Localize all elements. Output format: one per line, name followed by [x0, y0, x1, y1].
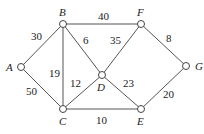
edge-weight-C-D: 12	[70, 77, 81, 89]
edge-A-B	[21, 24, 63, 67]
edge-D-F	[102, 24, 141, 75]
node-label-A: A	[5, 61, 13, 73]
edge-weight-D-E: 23	[123, 77, 135, 89]
node-D	[99, 72, 106, 79]
node-label-F: F	[136, 6, 144, 18]
node-G	[183, 63, 190, 70]
node-label-B: B	[59, 6, 66, 18]
node-label-G: G	[195, 60, 203, 72]
edge-F-G	[141, 24, 186, 66]
node-label-C: C	[59, 115, 67, 127]
edge-weight-F-G: 8	[166, 32, 172, 44]
edge-D-E	[102, 75, 141, 109]
edge-weight-A-C: 50	[26, 85, 38, 97]
edge-weight-A-B: 30	[31, 30, 43, 42]
edge-B-D	[63, 24, 102, 75]
edge-weight-B-F: 40	[98, 10, 110, 22]
weighted-graph-diagram: 30501940612352310820 ABCDFGE	[0, 0, 204, 134]
node-label-D: D	[96, 81, 105, 93]
node-C	[60, 106, 67, 113]
edge-weight-B-C: 19	[49, 67, 61, 79]
edge-weight-E-G: 20	[163, 88, 175, 100]
node-F	[138, 21, 145, 28]
node-B	[60, 21, 67, 28]
node-E	[138, 106, 145, 113]
node-A	[18, 64, 25, 71]
node-label-E: E	[136, 115, 144, 127]
edge-weight-C-E: 10	[96, 114, 108, 126]
edge-weight-B-D: 6	[83, 34, 89, 46]
edge-weight-D-F: 35	[110, 34, 122, 46]
edges-layer	[21, 24, 186, 109]
